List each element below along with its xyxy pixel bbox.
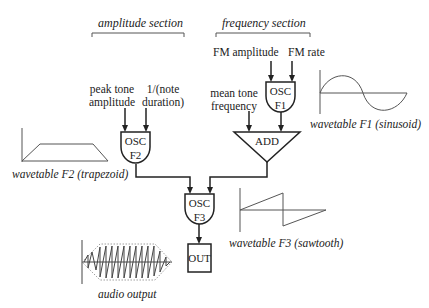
osc-f2-line1: OSC bbox=[121, 135, 150, 147]
wire-f2-to-f3 bbox=[136, 164, 190, 188]
fm-amplitude-label: FM amplitude bbox=[213, 46, 279, 59]
wavetable-f1-plot bbox=[320, 70, 407, 114]
mean-tone-frequency-label: mean tone frequency bbox=[206, 87, 262, 113]
arrowhead bbox=[246, 125, 252, 132]
osc-f2-line2: F2 bbox=[121, 149, 150, 161]
osc-f3-line2: F3 bbox=[185, 211, 214, 223]
osc-f2-block: OSC F2 bbox=[121, 135, 150, 161]
amplitude-bracket bbox=[92, 33, 184, 37]
note-duration-label: 1/(note duration) bbox=[138, 83, 188, 109]
frequency-section-label: frequency section bbox=[222, 17, 306, 30]
amplitude-section-label: amplitude section bbox=[98, 17, 183, 30]
mean-tone-line2: frequency bbox=[206, 100, 262, 113]
osc-f1-block: OSC F1 bbox=[266, 85, 295, 111]
peak-tone-line2: amplitude bbox=[84, 96, 140, 109]
arrowhead bbox=[187, 187, 193, 194]
osc-f1-line1: OSC bbox=[266, 85, 295, 97]
arrowhead bbox=[143, 125, 149, 132]
arrowhead bbox=[207, 187, 213, 194]
audio-output-caption: audio output bbox=[98, 288, 156, 301]
osc-f3-block: OSC F3 bbox=[185, 197, 214, 223]
audio-output-plot bbox=[82, 240, 172, 284]
wire-add-to-f3 bbox=[210, 162, 267, 188]
add-block: ADD bbox=[252, 135, 282, 147]
fm-rate-label: FM rate bbox=[288, 46, 325, 59]
peak-tone-line1: peak tone bbox=[84, 83, 140, 96]
note-duration-line2: duration) bbox=[138, 96, 188, 109]
osc-f1-line2: F1 bbox=[266, 99, 295, 111]
arrowhead bbox=[289, 75, 295, 82]
arrowhead bbox=[122, 125, 128, 132]
wavetable-f1-caption: wavetable F1 (sinusoid) bbox=[310, 118, 421, 131]
wavetable-f2-caption: wavetable F2 (trapezoid) bbox=[12, 168, 128, 181]
out-block: OUT bbox=[188, 252, 211, 264]
mean-tone-line1: mean tone bbox=[206, 87, 262, 100]
note-duration-line1: 1/(note bbox=[138, 83, 188, 96]
wavetable-f3-caption: wavetable F3 (sawtooth) bbox=[229, 237, 343, 250]
arrowhead bbox=[196, 237, 202, 244]
peak-tone-amplitude-label: peak tone amplitude bbox=[84, 83, 140, 109]
frequency-bracket bbox=[216, 33, 310, 37]
arrowhead bbox=[278, 125, 284, 132]
arrowhead bbox=[268, 75, 274, 82]
wavetable-f3-plot bbox=[240, 188, 326, 232]
wavetable-f2-plot bbox=[22, 128, 108, 162]
osc-f3-line1: OSC bbox=[185, 197, 214, 209]
